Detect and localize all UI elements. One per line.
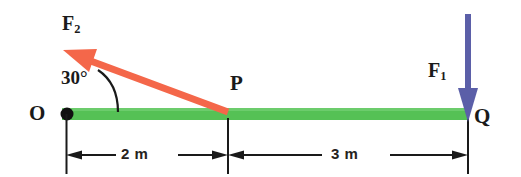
- force-label-f2-subscript: 2: [74, 22, 80, 36]
- point-label-p: P: [230, 73, 243, 94]
- force-label-f1: F1: [428, 60, 446, 80]
- angle-label: 30°: [61, 68, 88, 87]
- dimension-label-2m: 2 m: [121, 146, 148, 161]
- beam-highlight: [62, 108, 468, 111]
- force-label-f1-letter: F: [428, 59, 440, 81]
- force-diagram: O P Q F2 F1 30° 2 m 3 m: [0, 0, 521, 177]
- point-label-q: Q: [474, 106, 490, 127]
- force-label-f2: F2: [62, 13, 80, 33]
- force-label-f2-letter: F: [62, 12, 74, 34]
- point-label-o: O: [29, 103, 45, 124]
- dimension-label-3m: 3 m: [331, 146, 358, 161]
- angle-arc: [98, 70, 118, 112]
- force-arrow-f2: [63, 49, 228, 112]
- force-label-f1-subscript: 1: [440, 69, 446, 83]
